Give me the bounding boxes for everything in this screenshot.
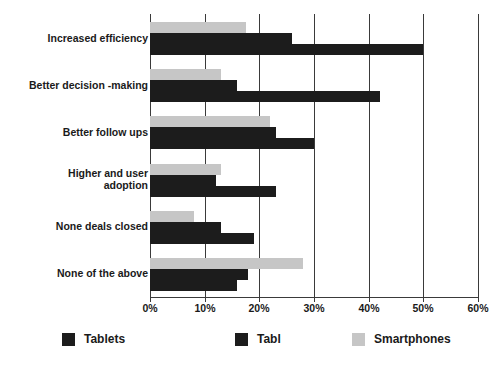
bar-smartphones (150, 22, 246, 33)
plot-area (150, 14, 478, 297)
category-label: Increased efficiency (2, 32, 148, 44)
category-label: Higher and useradoption (2, 167, 148, 191)
legend-label: Tabl (257, 332, 281, 346)
bar-smartphones (150, 258, 303, 269)
bar-tabl (150, 127, 276, 138)
legend-label: Smartphones (374, 332, 451, 346)
bar-smartphones (150, 69, 221, 80)
bar-tablets (150, 186, 276, 197)
legend-swatch-icon (352, 333, 365, 346)
bar-tablets (150, 233, 254, 244)
bar-tablets (150, 91, 380, 102)
gridline-30 (314, 14, 315, 297)
bar-tabl (150, 222, 221, 233)
bar-smartphones (150, 116, 270, 127)
bar-tabl (150, 33, 292, 44)
x-tick-label: 40% (347, 302, 391, 314)
x-tick-label: 20% (237, 302, 281, 314)
legend-item-tablets[interactable]: Tablets (62, 332, 125, 346)
x-tick-label: 0% (128, 302, 172, 314)
bar-tablets (150, 280, 237, 291)
gridline-60 (478, 14, 479, 297)
legend-label: Tablets (84, 332, 125, 346)
bar-tabl (150, 80, 237, 91)
gridline-10 (205, 14, 206, 297)
gridline-40 (369, 14, 370, 297)
gridline-20 (259, 14, 260, 297)
category-label: None deals closed (2, 220, 148, 232)
bar-smartphones (150, 211, 194, 222)
bar-tabl (150, 175, 216, 186)
x-tick-label: 30% (292, 302, 336, 314)
x-tick-label: 50% (401, 302, 445, 314)
category-label: Better follow ups (2, 126, 148, 138)
legend-swatch-icon (235, 333, 248, 346)
legend-item-tabl[interactable]: Tabl (235, 332, 281, 346)
x-tick-label: 60% (456, 302, 500, 314)
category-label: None of the above (2, 267, 148, 279)
bar-tabl (150, 269, 248, 280)
bar-smartphones (150, 164, 221, 175)
x-tick-label: 10% (183, 302, 227, 314)
bar-tablets (150, 44, 423, 55)
bar-chart: Increased efficiencyBetter decision -mak… (0, 0, 503, 365)
gridline-50 (423, 14, 424, 297)
legend-swatch-icon (62, 333, 75, 346)
legend-item-smartphones[interactable]: Smartphones (352, 332, 451, 346)
category-label: Better decision -making (2, 79, 148, 91)
bar-tablets (150, 138, 314, 149)
chart-legend: TabletsTablSmartphones (0, 332, 503, 362)
category-axis-labels: Increased efficiencyBetter decision -mak… (0, 0, 148, 300)
